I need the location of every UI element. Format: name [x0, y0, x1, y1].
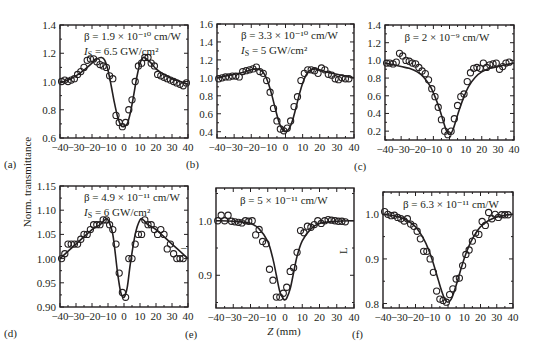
fit-curve [60, 219, 188, 298]
x-tick-label: 40 [508, 311, 520, 323]
y-tick-label: 0.6 [367, 90, 381, 102]
x-tick-label: 30 [167, 310, 179, 322]
data-point-marker [467, 70, 473, 76]
y-tick-label: 1.4 [367, 19, 381, 31]
panel-f: −40−30−20−100102030400.80.91.0β = 6.3 × … [352, 192, 519, 341]
x-tick-label: −10 [259, 311, 277, 323]
y-tick-label: 1.4 [42, 19, 56, 31]
x-tick-label: −10 [423, 311, 441, 323]
y-tick-label: 0.6 [42, 132, 56, 144]
y-tick-label: 1.0 [42, 76, 56, 88]
parameter-annotation: β = 1.9 × 10⁻¹⁰ cm/W [84, 30, 182, 42]
y-tick-label: 0.90 [37, 301, 57, 313]
y-axis-label: Norm. transmittance [21, 137, 33, 228]
data-point-marker [266, 266, 272, 272]
panels-group: −40−30−20−100102030400.60.81.01.21.4β = … [4, 18, 520, 341]
x-tick-label: 10 [135, 141, 147, 153]
x-tick-label: 20 [314, 311, 326, 323]
fit-curve [383, 214, 513, 302]
data-point-marker [225, 212, 231, 218]
x-tick-label: −30 [226, 141, 244, 153]
y-tick-label: 1.0 [365, 208, 379, 220]
y-tick-label: 0.2 [367, 125, 381, 137]
x-tick-label: −30 [393, 143, 411, 155]
y-tick-label: 1.0 [199, 72, 213, 84]
x-tick-label: −20 [409, 143, 427, 155]
x-tick-label: 40 [183, 141, 195, 153]
y-tick-label: 1.00 [37, 253, 57, 265]
x-tick-label: 40 [349, 311, 361, 323]
y-tick-label: 1.0 [367, 54, 381, 66]
data-point-marker [434, 288, 440, 294]
x-tick-label: −10 [99, 310, 117, 322]
x-tick-label: 20 [151, 141, 163, 153]
parameter-annotation: IS = 6.5 GW/cm² [83, 45, 159, 59]
panel-label: (c) [354, 160, 367, 173]
panel-label: (d) [4, 327, 17, 340]
x-tick-label: −20 [407, 311, 425, 323]
x-tick-label: 10 [135, 310, 147, 322]
y-tick-label: 1.4 [199, 36, 213, 48]
y-tick-label: 0.4 [367, 107, 381, 119]
x-tick-label: −40 [207, 311, 225, 323]
x-tick-label: 10 [459, 311, 471, 323]
x-tick-label: −30 [225, 311, 243, 323]
y-tick-label: 1.2 [42, 47, 56, 59]
y-tick-label: 1.6 [199, 18, 213, 30]
x-tick-label: 20 [314, 141, 326, 153]
fit-curve [60, 57, 188, 127]
data-point-marker [486, 209, 492, 215]
x-tick-label: 40 [509, 143, 521, 155]
panel-label: (f) [352, 328, 363, 341]
x-tick-label: 20 [151, 310, 163, 322]
y-tick-label: 1.15 [37, 180, 57, 192]
x-tick-label: 0 [121, 310, 127, 322]
x-tick-label: 0 [447, 143, 453, 155]
experimental-points [59, 54, 190, 129]
x-tick-label: −20 [242, 311, 260, 323]
y-tick-label: 1.2 [199, 54, 213, 66]
y-tick-label: 0.95 [37, 277, 57, 289]
panel-e: −40−30−20−100102030400.91.0β = 5 × 10⁻¹¹… [185, 188, 360, 341]
x-tick-label: 30 [167, 141, 179, 153]
experimental-points [215, 212, 349, 300]
x-tick-label: 30 [331, 311, 343, 323]
data-point-marker [287, 268, 293, 274]
y-tick-label: 0.9 [198, 269, 212, 281]
x-tick-label: −40 [376, 143, 394, 155]
data-point-marker [284, 284, 290, 290]
x-tick-label: 0 [282, 311, 288, 323]
x-tick-label: −30 [391, 311, 409, 323]
x-tick-label: −10 [99, 141, 117, 153]
x-tick-label: 40 [349, 141, 361, 153]
y-tick-label: 0.8 [365, 298, 379, 310]
fit-curve [385, 63, 514, 135]
y-tick-label: 0.9 [365, 253, 379, 265]
experimental-points [384, 50, 513, 138]
y-tick-label: 1.05 [37, 228, 57, 240]
stray-mark: L [337, 247, 349, 254]
x-tick-label: 30 [492, 143, 504, 155]
stray-mark: – [180, 241, 187, 253]
x-axis-label: Z (mm) [267, 325, 301, 338]
figure-canvas: −40−30−20−100102030400.60.81.01.21.4β = … [0, 0, 538, 357]
parameter-annotation: β = 4.9 × 10⁻¹¹ cm/W [84, 191, 180, 203]
y-tick-label: 1.2 [367, 37, 381, 49]
panel-b: −40−30−20−100102030400.40.60.81.01.21.41… [186, 18, 360, 171]
x-tick-label: 20 [475, 311, 487, 323]
y-tick-label: 0.8 [199, 90, 213, 102]
panel-c: −40−30−20−100102030400.20.40.60.81.01.21… [354, 19, 520, 173]
y-tick-label: 0.4 [199, 126, 213, 138]
experimental-points [382, 209, 512, 306]
panel-label: (e) [185, 328, 198, 341]
x-tick-label: −10 [425, 143, 443, 155]
x-tick-label: 0 [283, 141, 289, 153]
x-tick-label: 10 [297, 141, 309, 153]
x-tick-label: 0 [121, 141, 127, 153]
x-tick-label: 40 [183, 310, 195, 322]
parameter-annotation: β = 5 × 10⁻¹¹ cm/W [240, 194, 328, 206]
fit-curve [216, 221, 354, 300]
experimental-points [59, 217, 187, 301]
x-tick-label: −40 [208, 141, 226, 153]
y-tick-label: 1.0 [198, 215, 212, 227]
